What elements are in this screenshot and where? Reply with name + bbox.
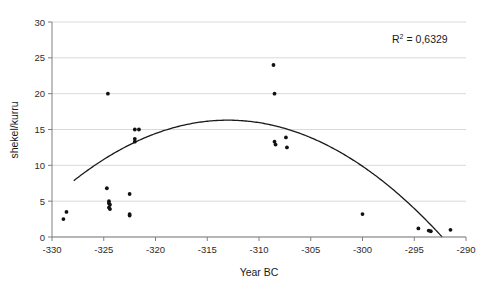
x-tick-label: -305	[301, 244, 320, 255]
data-point	[128, 214, 132, 218]
data-point	[285, 146, 289, 150]
y-tick-label: 10	[34, 160, 45, 171]
data-point	[273, 92, 277, 96]
data-point	[65, 210, 69, 214]
x-tick-label: -295	[405, 244, 424, 255]
y-tick-label: 30	[34, 17, 45, 28]
x-tick-label: -310	[249, 244, 268, 255]
r-squared-value: = 0,6329	[407, 33, 448, 45]
data-point	[449, 228, 453, 232]
data-point	[128, 192, 132, 196]
data-point	[416, 227, 420, 231]
chart-figure: 051015202530 -330-325-320-315-310-305-30…	[0, 0, 494, 283]
data-point	[274, 143, 278, 147]
data-point	[361, 212, 365, 216]
data-point	[284, 135, 288, 139]
x-tick-label: -315	[198, 244, 217, 255]
x-tick-label: -300	[353, 244, 372, 255]
x-axis-title: Year BC	[240, 266, 279, 278]
x-tick-label: -290	[456, 244, 475, 255]
scatter-plot: 051015202530 -330-325-320-315-310-305-30…	[0, 0, 494, 283]
data-point	[61, 217, 65, 221]
data-point	[133, 140, 137, 144]
y-axis-title: shekel/kurru	[8, 101, 20, 158]
data-point	[108, 207, 112, 211]
x-tick-label: -330	[42, 244, 61, 255]
data-point	[137, 128, 141, 132]
x-tick-label: -320	[146, 244, 165, 255]
data-point	[133, 128, 137, 132]
data-point	[429, 229, 433, 233]
y-tick-label: 0	[40, 232, 45, 243]
y-tick-label: 5	[40, 196, 45, 207]
data-point	[272, 63, 276, 67]
x-tick-label: -325	[94, 244, 113, 255]
r-squared-superscript: 2	[400, 33, 404, 40]
data-point	[105, 186, 109, 190]
data-point	[106, 92, 110, 96]
y-tick-label: 15	[34, 124, 45, 135]
y-tick-label: 20	[34, 88, 45, 99]
y-tick-label: 25	[34, 52, 45, 63]
